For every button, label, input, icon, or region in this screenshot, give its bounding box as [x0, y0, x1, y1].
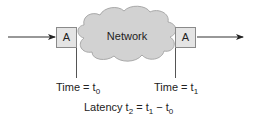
end-time-label: Time = t1 — [154, 81, 198, 98]
formula-sub-b: 0 — [169, 107, 173, 116]
right-endpoint-label: A — [175, 31, 196, 44]
end-time-subscript: 1 — [194, 87, 198, 96]
network-label: Network — [96, 30, 158, 43]
start-time-prefix: Time = t — [56, 81, 96, 93]
formula-minus: − t — [153, 101, 169, 113]
start-time-subscript: 0 — [96, 87, 100, 96]
formula-prefix: Latency t — [84, 101, 129, 113]
end-time-prefix: Time = t — [154, 81, 194, 93]
latency-formula: Latency t2 = t1 − t0 — [84, 101, 173, 118]
left-endpoint-label: A — [56, 31, 77, 44]
start-time-label: Time = t0 — [56, 81, 100, 98]
formula-eq: = t — [133, 101, 149, 113]
